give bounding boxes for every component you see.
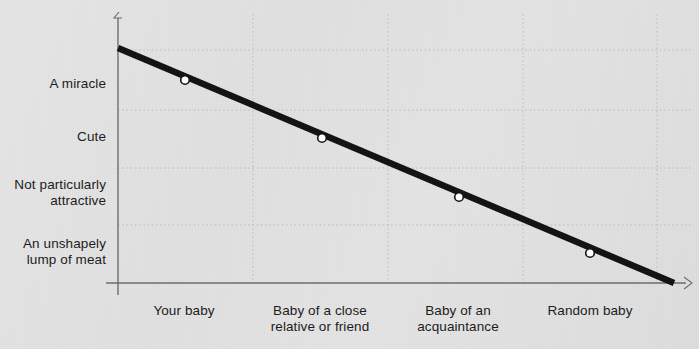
trend-line	[118, 48, 674, 283]
data-point-your-baby	[181, 76, 190, 85]
data-point-close-relative-baby	[318, 134, 327, 143]
chart-plot-svg	[0, 0, 699, 349]
data-point-acquaintance-baby	[455, 193, 464, 202]
y-tick-label-unshapely-lump-of-meat: An unshapely lump of meat	[0, 236, 106, 267]
horizontal-gridlines	[118, 50, 692, 225]
y-tick-label-cute: Cute	[0, 129, 106, 145]
y-tick-label-a-miracle: A miracle	[0, 76, 106, 92]
data-point-random-baby	[586, 249, 595, 258]
y-tick-label-not-particularly-attractive: Not particularly attractive	[0, 177, 106, 208]
x-tick-label-random-baby: Random baby	[490, 303, 690, 319]
vertical-gridlines	[253, 14, 657, 283]
chart-container: A miracle Cute Not particularly attracti…	[0, 0, 699, 349]
